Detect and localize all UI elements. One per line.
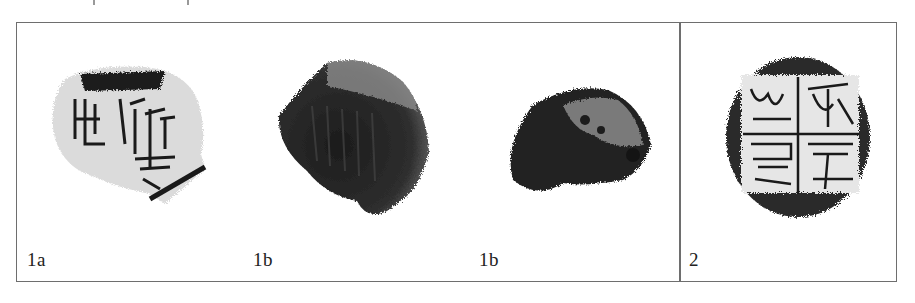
photo-1b-front-image <box>267 51 437 226</box>
panel-label-1b-front: 1b <box>253 249 273 271</box>
photo-1b-back-image <box>493 75 653 205</box>
panel-label-1a: 1a <box>27 249 46 271</box>
rubbing-1a-image <box>25 59 215 209</box>
panel-label-2: 2 <box>689 249 699 271</box>
top-edge-mark <box>187 0 189 5</box>
panel-label-1b-back: 1b <box>479 249 499 271</box>
top-edge-mark <box>93 0 95 5</box>
figure-frame: 1a 1b 1b 2 <box>16 22 897 282</box>
panel-divider <box>679 23 681 281</box>
rubbing-2-image <box>713 49 883 224</box>
